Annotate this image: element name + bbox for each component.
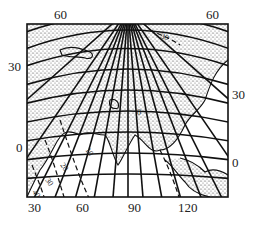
label-bottom-120: 120 [178,201,198,214]
map-figure: 10 20 30 40 30 0 [0,0,254,227]
label-right-30: 30 [232,88,245,101]
isoline-label-0: 0 [137,108,141,117]
isoline-label-40: 40 [30,188,42,200]
label-left-0: 0 [16,141,23,154]
label-top-right: 60 [206,8,219,21]
isoline-label-10: 10 [83,146,95,158]
label-right-0: 0 [232,156,239,169]
label-bottom-90: 90 [128,201,141,214]
label-bottom-60: 60 [76,201,89,214]
label-left-30: 30 [8,60,21,73]
label-bottom-30: 30 [28,201,41,214]
label-top-left: 60 [54,8,67,21]
